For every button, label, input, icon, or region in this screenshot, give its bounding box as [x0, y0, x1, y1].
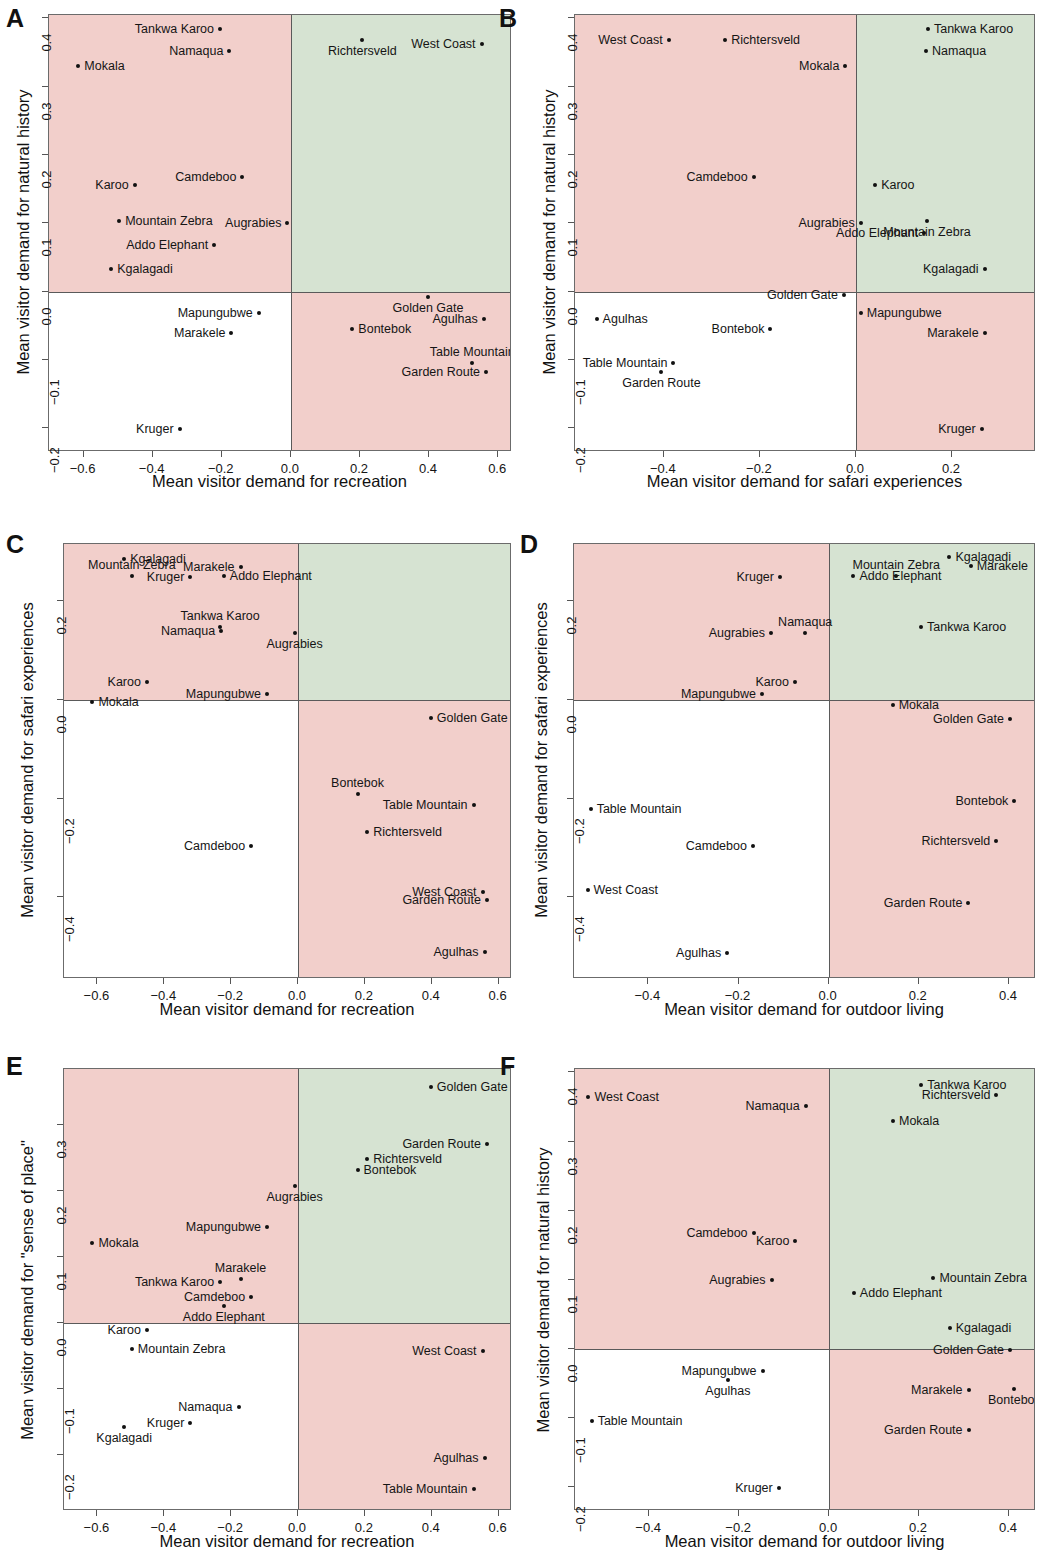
data-point-label: Augrabies	[709, 627, 765, 640]
y-axis-title: Mean visitor demand for "sense of place"	[18, 1140, 37, 1440]
y-axis-tick-label: 0.2	[565, 171, 580, 189]
data-point	[257, 311, 261, 315]
y-axis-tick	[568, 17, 574, 18]
data-point-label: Table Mountain	[583, 357, 668, 370]
data-point-label: Agulhas	[433, 1452, 478, 1465]
x-axis-tick	[951, 451, 952, 457]
y-axis-tick	[57, 1256, 63, 1257]
y-axis-tick	[42, 17, 48, 18]
data-point-label: Namaqua	[169, 45, 223, 58]
y-axis-tick-label: 0.3	[39, 102, 54, 120]
data-point	[994, 839, 998, 843]
data-point	[429, 1085, 433, 1089]
data-point-label: Table Mountain	[430, 346, 511, 359]
data-point-label: West Coast	[411, 38, 475, 51]
quadrant-bottom-left	[64, 700, 298, 978]
zero-line-vertical	[829, 1069, 830, 1509]
x-axis-title: Mean visitor demand for recreation	[63, 1000, 511, 1019]
data-point-label: Camdeboo	[184, 1290, 245, 1303]
data-point-label: Mountain Zebra	[125, 214, 213, 227]
x-axis-tick	[364, 1510, 365, 1516]
data-point-label: Mapungubwe	[186, 688, 261, 701]
data-point	[967, 1388, 971, 1392]
y-axis-tick	[568, 1071, 574, 1072]
y-axis-tick	[568, 1417, 574, 1418]
x-axis-tick	[648, 1510, 649, 1516]
data-point	[481, 1349, 485, 1353]
quadrant-top-right	[829, 1069, 1035, 1349]
data-point	[482, 317, 486, 321]
data-point	[485, 898, 489, 902]
data-point	[1008, 1348, 1012, 1352]
x-axis-tick	[431, 978, 432, 984]
data-point-label: Mapungubwe	[186, 1221, 261, 1234]
y-axis-tick	[42, 291, 48, 292]
data-point-label: Garden Route	[402, 1137, 481, 1150]
data-point-label: Marakele	[215, 1262, 266, 1275]
y-axis-tick	[568, 427, 574, 428]
y-axis-tick-label: 0.1	[54, 1273, 69, 1291]
y-axis-tick	[42, 86, 48, 87]
data-point-label: Kgalagadi	[117, 263, 173, 276]
x-axis-tick	[647, 978, 648, 984]
data-point-label: Mountain Zebra	[138, 1343, 226, 1356]
y-axis-tick	[568, 86, 574, 87]
data-point-label: Mapungubwe	[178, 307, 253, 320]
data-point-label: Mapungubwe	[867, 307, 942, 320]
data-point-label: Camdeboo	[175, 171, 236, 184]
data-point	[145, 680, 149, 684]
y-axis-tick-label: −0.2	[573, 447, 588, 473]
data-point-label: Bontebok	[956, 795, 1009, 808]
data-point-label: Garden Route	[884, 1424, 963, 1437]
y-axis-tick-label: −0.4	[62, 917, 77, 943]
data-point-label: Camdeboo	[686, 171, 747, 184]
data-point-label: Camdeboo	[686, 839, 747, 852]
data-point-label: Marakele	[927, 326, 978, 339]
x-axis-tick	[290, 451, 291, 457]
data-point-label: Addo Elephant	[183, 1311, 265, 1324]
data-point	[483, 1456, 487, 1460]
data-point-label: Agulhas	[705, 1385, 750, 1398]
data-point	[188, 1421, 192, 1425]
data-point	[586, 888, 590, 892]
data-point-label: Richtersveld	[922, 834, 991, 847]
data-point	[590, 1419, 594, 1423]
data-point	[356, 1168, 360, 1172]
quadrant-top-left	[575, 15, 856, 292]
data-point-label: Kruger	[938, 423, 976, 436]
data-point-label: Agulhas	[433, 946, 478, 959]
y-axis-tick	[57, 1454, 63, 1455]
x-axis-tick	[738, 978, 739, 984]
data-point-label: Augrabies	[267, 1191, 323, 1204]
data-point	[265, 1225, 269, 1229]
data-point-label: Karoo	[108, 1323, 141, 1336]
data-point-label: Tankwa Karoo	[135, 22, 214, 35]
data-point	[285, 221, 289, 225]
x-axis-title: Mean visitor demand for outdoor living	[573, 1000, 1035, 1019]
data-point-label: Tankwa Karoo	[934, 22, 1013, 35]
data-point	[240, 175, 244, 179]
y-axis-tick-label: −0.1	[573, 1437, 588, 1463]
data-point-label: Addo Elephant	[230, 570, 312, 583]
data-point	[659, 370, 663, 374]
y-axis-tick	[42, 154, 48, 155]
x-axis-title: Mean visitor demand for safari experienc…	[574, 472, 1035, 491]
data-point	[777, 1486, 781, 1490]
data-point	[229, 331, 233, 335]
x-axis-title: Mean visitor demand for recreation	[48, 472, 511, 491]
plot-area-c: KgalagadiMarakeleMountain ZebraKrugerAdd…	[63, 543, 511, 978]
plot-area-d: KgalagadiMarakeleMountain ZebraAddo Elep…	[573, 543, 1035, 978]
x-axis-tick	[364, 978, 365, 984]
data-point	[218, 625, 222, 629]
data-point-label: Kruger	[147, 571, 185, 584]
data-point	[360, 38, 364, 42]
data-point	[793, 680, 797, 684]
zero-line-vertical	[291, 15, 292, 450]
data-point-label: Karoo	[881, 179, 914, 192]
y-axis-tick-label: 0.4	[565, 34, 580, 52]
data-point	[671, 361, 675, 365]
data-point	[983, 267, 987, 271]
data-point	[429, 716, 433, 720]
data-point-label: Namaqua	[932, 45, 986, 58]
plot-area-a: Tankwa KarooNamaquaMokalaRichtersveldWes…	[48, 14, 511, 451]
